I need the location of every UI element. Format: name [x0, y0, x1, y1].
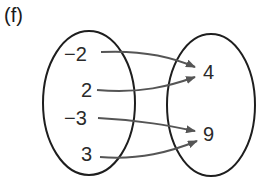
domain-element: 2 [81, 80, 92, 100]
range-element: 4 [203, 62, 214, 82]
arrow-2-to-4 [97, 77, 195, 91]
domain-element: 3 [81, 144, 92, 164]
domain-element: −3 [64, 108, 87, 128]
range-oval [167, 34, 255, 176]
domain-element: −2 [64, 44, 87, 64]
arrow-3-to-9 [100, 141, 197, 158]
mapping-diagram [0, 0, 266, 187]
range-element: 9 [203, 124, 214, 144]
arrow-neg3-to-9 [98, 118, 195, 131]
